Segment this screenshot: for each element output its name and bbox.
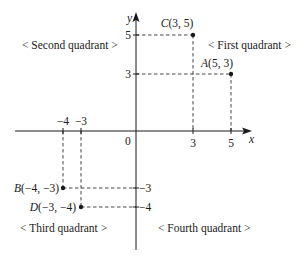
x-tick-label: −3: [75, 115, 87, 127]
point-label-b: B(−4, −3): [14, 182, 59, 195]
quadrant-label-first: < First quadrant >: [208, 39, 291, 52]
y-tick-label: −4: [139, 201, 151, 213]
x-tick-label: −4: [57, 115, 69, 127]
point-c: [191, 33, 195, 37]
point-label-c: C(3, 5): [161, 17, 194, 30]
point-label-a: A(5, 3): [200, 57, 233, 70]
quadrant-label-fourth: < Fourth quadrant >: [158, 222, 251, 235]
point-d: [79, 205, 83, 209]
quadrant-label-second: < Second quadrant >: [22, 39, 118, 52]
coordinate-plane-diagram: x y 0 −4 −3 3 5 5 3 −3 −4 C(3, 5) A(5, 3…: [0, 0, 304, 263]
point-label-d: D(−3, −4): [29, 201, 76, 214]
origin-label: 0: [125, 135, 131, 147]
y-tick-label: 3: [125, 68, 131, 80]
y-tick-label: 5: [125, 29, 131, 41]
x-tick-label: 5: [228, 137, 234, 149]
quadrant-label-third: < Third quadrant >: [20, 222, 107, 235]
x-axis-label: x: [248, 133, 255, 145]
y-axis-label: y: [126, 12, 133, 25]
x-tick-label: 3: [190, 137, 196, 149]
y-tick-label: −3: [139, 182, 151, 194]
point-b: [61, 186, 65, 190]
point-a: [229, 72, 233, 76]
